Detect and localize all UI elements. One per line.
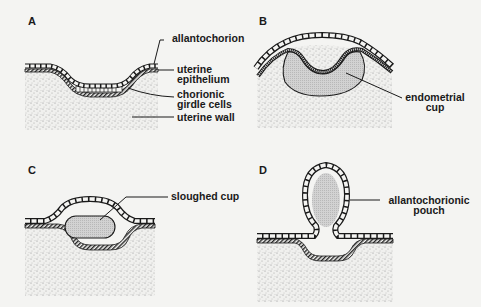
label-allantochorion: allantochorion [172,33,244,44]
label-uterine-wall: uterine wall [177,112,235,123]
diagram-canvas [0,0,481,307]
label-sloughed-cup: sloughed cup [171,191,239,202]
label-endometrial-cup-line2: cup [400,102,470,113]
panel-label-b: B [259,15,267,27]
label-allantochorionic-pouch-line2: pouch [380,205,478,216]
panel-label-a: A [28,15,36,27]
panel-label-c: C [28,164,36,176]
panel-b-illustration [256,35,402,128]
panel-a-illustration [25,40,174,130]
panel-c-illustration [25,197,168,296]
panel-d-illustration [257,165,393,302]
label-chorionic-girdle-line2: girdle cells [177,99,232,110]
label-uterine-epithelium-line2: epithelium [177,74,230,85]
panel-label-d: D [259,164,267,176]
